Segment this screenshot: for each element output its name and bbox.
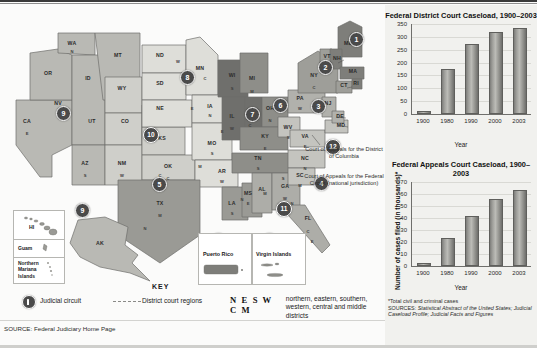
district-sublabel: E bbox=[221, 129, 224, 134]
state-label-il: IL bbox=[229, 113, 235, 119]
district-sublabel: N bbox=[144, 226, 147, 231]
map-key: KEY Judicial circuit District court regi… bbox=[0, 283, 385, 319]
state-label-sd: SD bbox=[156, 80, 164, 86]
y-tick-label: 0 bbox=[385, 263, 407, 269]
sources-label: SOURCES: bbox=[388, 305, 418, 311]
gridline bbox=[411, 182, 531, 183]
footnote-sources: SOURCES: Statistical Abstract of the Uni… bbox=[388, 305, 534, 318]
district-sublabel: S bbox=[84, 173, 87, 178]
x-axis bbox=[411, 114, 531, 115]
y-tick-label: 0 bbox=[385, 111, 407, 117]
district-sublabel: S bbox=[287, 135, 290, 140]
x-tick-label: 1980 bbox=[435, 270, 459, 276]
state-label-ak: AK bbox=[96, 240, 104, 246]
district-sublabel: N bbox=[269, 118, 272, 123]
state-label-or: OR bbox=[44, 70, 52, 76]
district-sublabel: C bbox=[249, 123, 252, 128]
charts-panel: Number of cases filed (in thousands)* Fe… bbox=[385, 5, 537, 345]
state-label-ia: IA bbox=[207, 103, 213, 109]
y-tick-label: 50 bbox=[385, 98, 407, 104]
state-label-nd: ND bbox=[156, 52, 164, 58]
district-sublabel: S bbox=[282, 176, 285, 181]
dashed-line-icon bbox=[113, 301, 141, 302]
circuit-badge-3[interactable]: 3 bbox=[311, 99, 326, 114]
district-sublabel: E bbox=[264, 146, 267, 151]
state-label-de: DE bbox=[336, 113, 344, 119]
x-axis bbox=[411, 266, 531, 267]
key-title: KEY bbox=[152, 283, 169, 290]
gridline bbox=[411, 24, 531, 25]
circuit-badge-1[interactable]: 1 bbox=[349, 32, 364, 47]
district-sublabel: M bbox=[263, 191, 267, 196]
district-sublabel: C bbox=[204, 76, 207, 81]
circuit-badge-2[interactable]: 2 bbox=[318, 60, 333, 75]
chart-1-x-title: Year bbox=[385, 141, 537, 148]
footnote-asterisk: *Total civil and criminal cases bbox=[388, 298, 534, 305]
bar-2000 bbox=[489, 199, 503, 266]
circuit-badge-10[interactable]: 10 bbox=[143, 127, 159, 143]
chart-district-court: Federal District Court Caseload, 1900–20… bbox=[385, 11, 537, 128]
state-label-vt: VT bbox=[323, 53, 331, 59]
y-tick-label: 10 bbox=[385, 251, 407, 257]
inset-pacific-territories: HI Guam Northern Mariana Islands bbox=[13, 210, 65, 284]
circuit-badge-5[interactable]: 5 bbox=[152, 177, 167, 192]
state-label-mi: MI bbox=[249, 75, 256, 81]
district-sublabel: N bbox=[209, 113, 212, 118]
bar-1900 bbox=[417, 263, 431, 266]
bar-2003 bbox=[513, 28, 527, 114]
x-tick-label: 1900 bbox=[411, 270, 435, 276]
chart-1-title: Federal District Court Caseload, 1900–20… bbox=[385, 11, 537, 20]
x-tick-label: 2003 bbox=[507, 270, 531, 276]
state-label-wy: WY bbox=[118, 85, 127, 91]
chart-2-plot: 01020304050607019001980199020002003 bbox=[385, 182, 537, 280]
district-sublabel: S bbox=[211, 151, 214, 156]
state-label-tx: TX bbox=[156, 200, 163, 206]
state-label-ms: MS bbox=[244, 190, 253, 196]
state-label-mo: MO bbox=[208, 140, 217, 146]
circuit-badge-7[interactable]: 7 bbox=[245, 107, 260, 122]
district-sublabel: M bbox=[250, 89, 254, 94]
district-sublabel: M bbox=[158, 213, 162, 218]
circuit-badge-11[interactable]: 11 bbox=[276, 201, 292, 217]
puerto-rico-shape bbox=[199, 261, 251, 281]
map-source-line: SOURCE: Federal Judiciary Home Page bbox=[4, 325, 115, 332]
state-label-ks: KS bbox=[158, 135, 166, 141]
key-label-judicial-circuit: Judicial circuit bbox=[40, 295, 81, 307]
state-label-ut: UT bbox=[88, 118, 96, 124]
annotation-federal-circuit: Court of Appeals for the Federal Circuit… bbox=[303, 173, 385, 186]
y-tick-label: 200 bbox=[385, 60, 407, 66]
state-label-ny: NY bbox=[310, 72, 318, 78]
district-sublabel: M bbox=[298, 183, 302, 188]
bar-1980 bbox=[441, 69, 455, 114]
inset-label-puerto-rico: Puerto Rico bbox=[203, 251, 233, 257]
chart-1-plot: 0501001502002503003501900198019902000200… bbox=[385, 24, 537, 128]
district-sublabel: W bbox=[298, 106, 302, 111]
x-tick-label: 1900 bbox=[411, 118, 435, 124]
circuit-badge-9[interactable]: 9 bbox=[56, 106, 71, 121]
y-tick-label: 50 bbox=[385, 203, 407, 209]
district-sublabel: C bbox=[167, 176, 170, 181]
circuit-badge-9b[interactable]: 9 bbox=[75, 203, 90, 218]
y-tick-label: 350 bbox=[385, 21, 407, 27]
district-sublabel: S bbox=[257, 166, 260, 171]
state-label-nv: NV bbox=[54, 100, 62, 106]
bar-1900 bbox=[417, 111, 431, 114]
top-rule-dark bbox=[0, 0, 537, 2]
state-label-az: AZ bbox=[81, 160, 89, 166]
y-tick-label: 70 bbox=[385, 179, 407, 185]
state-label-wi: WI bbox=[229, 72, 236, 78]
state-label-mt: MT bbox=[114, 52, 123, 58]
neswcm-letters: N E S W C M bbox=[230, 295, 281, 315]
state-label-co: CO bbox=[121, 118, 129, 124]
y-tick-label: 60 bbox=[385, 191, 407, 197]
y-tick-label: 40 bbox=[385, 215, 407, 221]
key-item-district-regions: District court regions bbox=[113, 295, 202, 307]
bar-2003 bbox=[513, 190, 527, 266]
chart-footnotes: *Total civil and criminal cases SOURCES:… bbox=[388, 298, 534, 318]
bar-1990 bbox=[465, 44, 479, 114]
circuit-badge-6[interactable]: 6 bbox=[273, 98, 288, 113]
y-tick-label: 30 bbox=[385, 227, 407, 233]
district-sublabel: E bbox=[311, 239, 314, 244]
circuit-badge-8[interactable]: 8 bbox=[180, 70, 195, 85]
x-tick-label: 1990 bbox=[459, 270, 483, 276]
